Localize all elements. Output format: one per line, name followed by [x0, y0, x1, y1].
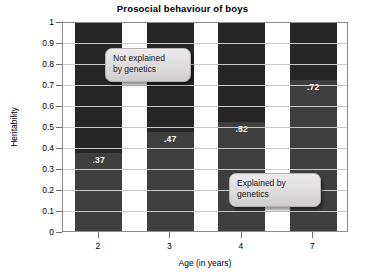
y-axis-title: Heritability	[9, 67, 19, 187]
y-axis-tick-label: 0.1	[42, 206, 54, 216]
bar-segment-explained: .72	[290, 80, 337, 231]
y-axis-tick-label: 0.7	[42, 80, 54, 90]
x-axis-tick-label: 7	[310, 241, 315, 251]
x-axis-tick-mark	[241, 232, 242, 238]
y-axis-tick-label: 0.8	[42, 59, 54, 69]
gridline	[63, 43, 347, 44]
y-axis-tick-label: 0.5	[42, 122, 54, 132]
x-axis-tick-mark	[169, 232, 170, 238]
x-axis: 2347	[62, 232, 348, 258]
y-axis-tick-label: 0.6	[42, 101, 54, 111]
bar-value-label: .72	[290, 82, 337, 92]
gridline	[63, 127, 347, 128]
annotation-not-explained: Not explained by genetics	[105, 48, 191, 82]
x-axis-tick-label: 2	[95, 241, 100, 251]
y-axis-tick-label: 1	[49, 17, 54, 27]
x-axis-tick-mark	[312, 232, 313, 238]
chart-title: Prosocial behaviour of boys	[0, 3, 365, 14]
gridline	[63, 85, 347, 86]
y-axis-tick-label: 0.3	[42, 164, 54, 174]
bar-segment-not-explained	[75, 22, 122, 153]
bar-segment-not-explained	[290, 22, 337, 80]
gridline	[63, 106, 347, 107]
gridline	[63, 169, 347, 170]
bar-value-label: .47	[147, 134, 194, 144]
y-axis-tick-label: 0.9	[42, 38, 54, 48]
y-axis-tick-label: 0.2	[42, 185, 54, 195]
annotation-explained: Explained by genetics	[229, 173, 321, 207]
x-axis-title: Age (in years)	[62, 258, 348, 268]
bar-segment-explained: .37	[75, 153, 122, 231]
chart-canvas: Prosocial behaviour of boys Heritability…	[0, 0, 365, 278]
gridline	[63, 211, 347, 212]
y-axis-tick-label: 0	[49, 227, 54, 237]
gridline	[63, 148, 347, 149]
y-axis-tick-label: 0.4	[42, 143, 54, 153]
bar-value-label: .52	[218, 124, 265, 134]
x-axis-tick-label: 4	[238, 241, 243, 251]
bar-value-label: .37	[75, 155, 122, 165]
y-axis: Heritability 10.90.80.70.60.50.40.30.20.…	[0, 22, 62, 232]
x-axis-tick-mark	[98, 232, 99, 238]
x-axis-tick-label: 3	[167, 241, 172, 251]
